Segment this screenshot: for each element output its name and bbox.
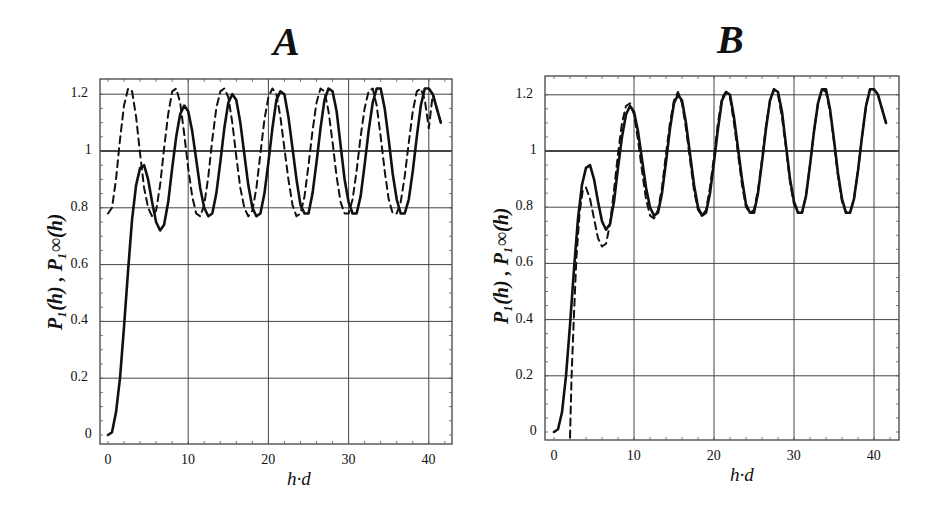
x-tick-label: 20 [707, 448, 721, 464]
plot-canvas [0, 0, 940, 509]
series-p1 [554, 89, 886, 432]
series-p1 [108, 89, 441, 436]
y-tick-label: 0.6 [70, 256, 88, 272]
plot-frame [100, 79, 452, 444]
x-tick-label: 30 [341, 452, 355, 468]
y-tick-label: 1 [530, 142, 537, 158]
y-tick-label: 1.2 [70, 85, 88, 101]
y-tick-label: 0.4 [70, 312, 88, 328]
y-tick-label: 0 [85, 426, 92, 442]
y-tick-label: 0.2 [515, 367, 533, 383]
y-tick-label: 0.2 [70, 369, 88, 385]
x-tick-label: 10 [627, 448, 641, 464]
x-tick-label: 40 [867, 448, 881, 464]
x-tick-label: 40 [422, 452, 436, 468]
x-tick-label: 30 [787, 448, 801, 464]
y-tick-label: 0.8 [70, 199, 88, 215]
x-tick-label: 20 [261, 452, 275, 468]
y-tick-label: 1 [85, 142, 92, 158]
plot-frame [545, 76, 899, 440]
y-tick-label: 0.4 [515, 311, 533, 327]
y-tick-label: 1.2 [515, 86, 533, 102]
x-tick-label: 0 [104, 452, 111, 468]
y-tick-label: 0.8 [515, 198, 533, 214]
x-tick-label: 10 [181, 452, 195, 468]
x-tick-label: 0 [550, 448, 557, 464]
y-tick-label: 0 [530, 423, 537, 439]
y-tick-label: 0.6 [515, 254, 533, 270]
